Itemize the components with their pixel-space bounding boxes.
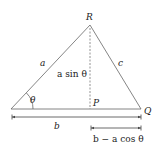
dimension-b	[12, 115, 141, 120]
side-a-line	[11, 25, 90, 109]
vertex-r-label: R	[85, 12, 93, 22]
side-c-line	[90, 25, 141, 109]
triangle-diagram: R P Q a c b θ a sin θ b − a cos θ	[0, 0, 158, 150]
side-a-label: a	[40, 58, 45, 68]
dimension-b-minus-acos	[91, 126, 141, 131]
vertex-q-label: Q	[144, 106, 152, 116]
side-b-label: b	[54, 121, 60, 131]
side-c-label: c	[118, 58, 123, 68]
vertex-p-label: P	[92, 98, 100, 108]
angle-theta-label: θ	[30, 95, 36, 105]
segment-label: b − a cos θ	[93, 134, 144, 144]
height-label: a sin θ	[57, 69, 87, 79]
